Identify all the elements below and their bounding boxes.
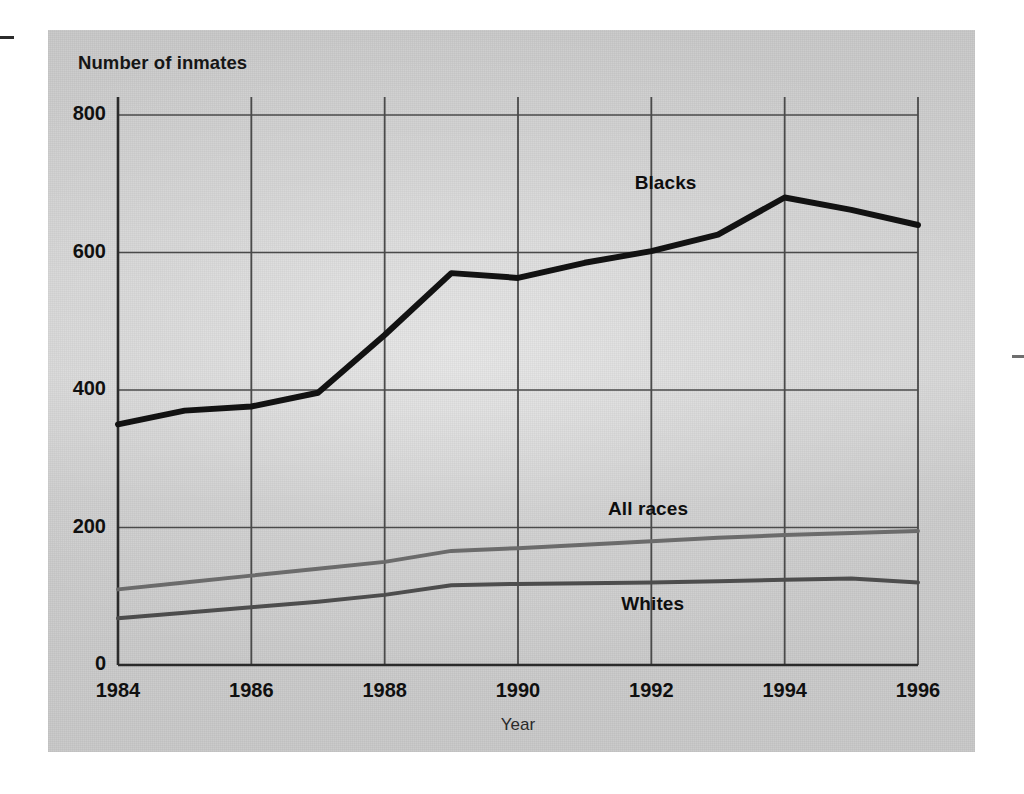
x-axis-tick-label: 1990 [468, 679, 568, 702]
x-axis-tick-label: 1992 [601, 679, 701, 702]
x-axis-tick-label: 1986 [201, 679, 301, 702]
x-axis-tick-label: 1994 [735, 679, 835, 702]
y-axis-tick-label: 600 [40, 240, 106, 263]
y-axis-tick-label: 0 [40, 652, 106, 675]
series-label-whites: Whites [621, 593, 684, 615]
series-label-all-races: All races [608, 498, 688, 520]
y-axis-tick-label: 800 [40, 102, 106, 125]
y-axis-tick-label: 400 [40, 377, 106, 400]
line-chart-plot [0, 0, 1024, 794]
x-axis-title: Year [418, 715, 618, 735]
x-axis-tick-label: 1984 [68, 679, 168, 702]
series-label-blacks: Blacks [635, 172, 697, 194]
y-axis-tick-label: 200 [40, 515, 106, 538]
x-axis-tick-label: 1996 [868, 679, 968, 702]
x-axis-tick-label: 1988 [335, 679, 435, 702]
